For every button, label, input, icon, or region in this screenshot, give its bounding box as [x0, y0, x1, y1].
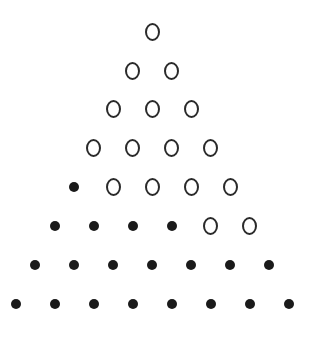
open-circle-icon: [106, 178, 121, 196]
open-circle-icon: [145, 100, 160, 118]
filled-dot-icon: [167, 221, 177, 231]
filled-dot-icon: [225, 260, 235, 270]
filled-dot-icon: [69, 182, 79, 192]
open-circle-icon: [242, 217, 257, 235]
open-circle-icon: [145, 178, 160, 196]
filled-dot-icon: [50, 221, 60, 231]
open-circle-icon: [223, 178, 238, 196]
filled-dot-icon: [128, 221, 138, 231]
filled-dot-icon: [89, 221, 99, 231]
open-circle-icon: [203, 217, 218, 235]
filled-dot-icon: [245, 299, 255, 309]
open-circle-icon: [145, 23, 160, 41]
open-circle-icon: [203, 139, 218, 157]
open-circle-icon: [184, 100, 199, 118]
open-circle-icon: [125, 139, 140, 157]
filled-dot-icon: [128, 299, 138, 309]
open-circle-icon: [86, 139, 101, 157]
filled-dot-icon: [147, 260, 157, 270]
filled-dot-icon: [167, 299, 177, 309]
open-circle-icon: [106, 100, 121, 118]
filled-dot-icon: [186, 260, 196, 270]
filled-dot-icon: [264, 260, 274, 270]
open-circle-icon: [125, 62, 140, 80]
filled-dot-icon: [284, 299, 294, 309]
filled-dot-icon: [108, 260, 118, 270]
open-circle-icon: [184, 178, 199, 196]
filled-dot-icon: [50, 299, 60, 309]
filled-dot-icon: [11, 299, 21, 309]
open-circle-icon: [164, 139, 179, 157]
filled-dot-icon: [89, 299, 99, 309]
open-circle-icon: [164, 62, 179, 80]
dot-triangle-diagram: [0, 0, 313, 338]
filled-dot-icon: [30, 260, 40, 270]
filled-dot-icon: [69, 260, 79, 270]
filled-dot-icon: [206, 299, 216, 309]
